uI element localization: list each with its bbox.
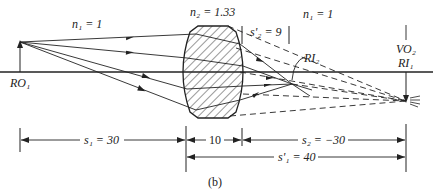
s1-dimension-label: s₁ = 30 [84, 133, 119, 147]
vo2-label: VO₂ [396, 42, 416, 56]
s2-dimension-label: s₂ = −30 [302, 133, 345, 147]
thickness-dimension-label: 10 [209, 133, 221, 147]
figure-caption: (b) [208, 175, 222, 189]
ri1-label: RI₁ [397, 56, 414, 70]
s2-prime-label: s'₂ = 9 [250, 25, 282, 39]
virtual-ray-ends [410, 96, 420, 107]
n1-left-label: n₁ = 1 [72, 17, 102, 31]
n2-lens-label: n₂ = 1.33 [190, 5, 235, 19]
virtual-rays [228, 26, 406, 116]
dimension-extensions [20, 124, 406, 172]
ri2-label: RI₂ [303, 51, 320, 65]
s1-prime-dimension-label: s'₁ = 40 [278, 150, 316, 164]
n1-right-label: n₁ = 1 [303, 7, 333, 21]
optics-diagram: n₁ = 1 n₂ = 1.33 n₁ = 1 s'₂ = 9 RI₂ VO₂ … [0, 0, 433, 190]
lens [183, 26, 243, 118]
ro1-label: RO₁ [9, 76, 30, 90]
